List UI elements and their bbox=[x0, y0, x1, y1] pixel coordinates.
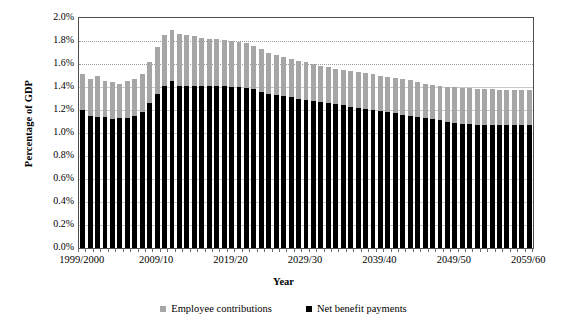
x-axis-tick bbox=[324, 248, 325, 252]
bar-group bbox=[184, 18, 189, 248]
x-axis-tick bbox=[525, 248, 526, 252]
x-axis-tick bbox=[197, 248, 198, 252]
bar-group bbox=[80, 18, 85, 248]
bar-net-benefit-payments bbox=[333, 104, 338, 248]
bar-group bbox=[103, 18, 108, 248]
chart-container: Percentage of GDP 0.0%0.2%0.4%0.6%0.8%1.… bbox=[0, 0, 567, 331]
bar-net-benefit-payments bbox=[192, 86, 197, 248]
bar-net-benefit-payments bbox=[140, 112, 145, 248]
legend-swatch-icon bbox=[306, 306, 312, 312]
x-axis-tick-labels: 1999/20002009/102019/202029/302039/40204… bbox=[0, 253, 567, 269]
x-axis-tick bbox=[234, 248, 235, 252]
y-axis-tick-label: 0.8% bbox=[24, 150, 74, 160]
bar-net-benefit-payments bbox=[415, 117, 420, 248]
x-axis-tick bbox=[368, 248, 369, 252]
bar-net-benefit-payments bbox=[147, 103, 152, 248]
x-axis-tick bbox=[100, 248, 101, 252]
bar-group bbox=[504, 18, 509, 248]
bar-net-benefit-payments bbox=[95, 117, 100, 248]
bar-group bbox=[326, 18, 331, 248]
bar-net-benefit-payments bbox=[408, 116, 413, 248]
bar-group bbox=[289, 18, 294, 248]
bar-net-benefit-payments bbox=[177, 86, 182, 248]
bar-net-benefit-payments bbox=[289, 97, 294, 248]
x-axis-tick bbox=[249, 248, 250, 252]
x-axis-tick bbox=[383, 248, 384, 252]
x-axis-tick bbox=[517, 248, 518, 252]
bar-group bbox=[333, 18, 338, 248]
x-axis-tick bbox=[428, 248, 429, 252]
bar-net-benefit-payments bbox=[259, 92, 264, 248]
y-axis-tick-label: 1.4% bbox=[24, 81, 74, 91]
bar-net-benefit-payments bbox=[311, 101, 316, 248]
y-axis-tick-label: 0.0% bbox=[24, 242, 74, 252]
bar-group bbox=[222, 18, 227, 248]
bar-net-benefit-payments bbox=[475, 125, 480, 248]
x-axis-tick bbox=[205, 248, 206, 252]
bar-group bbox=[356, 18, 361, 248]
y-axis-tick-label: 1.6% bbox=[24, 58, 74, 68]
bar-net-benefit-payments bbox=[512, 125, 517, 248]
x-axis-tick bbox=[272, 248, 273, 252]
bar-net-benefit-payments bbox=[80, 110, 85, 248]
x-axis-tick bbox=[338, 248, 339, 252]
x-axis-tick bbox=[227, 248, 228, 252]
bar-group bbox=[438, 18, 443, 248]
x-axis-tick bbox=[78, 248, 79, 252]
bar-net-benefit-payments bbox=[155, 94, 160, 248]
bar-net-benefit-payments bbox=[237, 87, 242, 248]
x-axis-tick bbox=[152, 248, 153, 252]
bar-group bbox=[512, 18, 517, 248]
bars-layer bbox=[79, 18, 533, 248]
bar-net-benefit-payments bbox=[497, 125, 502, 248]
y-axis-tick-label: 0.4% bbox=[24, 196, 74, 206]
x-axis-tick bbox=[487, 248, 488, 252]
bar-net-benefit-payments bbox=[117, 118, 122, 248]
x-axis-tick bbox=[108, 248, 109, 252]
bar-net-benefit-payments bbox=[304, 100, 309, 248]
bar-net-benefit-payments bbox=[296, 99, 301, 249]
y-axis-tick-label: 1.8% bbox=[24, 35, 74, 45]
bar-net-benefit-payments bbox=[423, 118, 428, 248]
bar-net-benefit-payments bbox=[251, 89, 256, 248]
legend-item[interactable]: Net benefit payments bbox=[306, 303, 407, 314]
x-axis-tick-label: 2059/60 bbox=[483, 253, 567, 266]
legend-label: Net benefit payments bbox=[317, 303, 407, 314]
bar-group bbox=[177, 18, 182, 248]
x-axis-tick bbox=[123, 248, 124, 252]
x-axis-tick bbox=[398, 248, 399, 252]
bar-group bbox=[311, 18, 316, 248]
bar-net-benefit-payments bbox=[214, 86, 219, 248]
x-axis-tick bbox=[443, 248, 444, 252]
bar-group bbox=[318, 18, 323, 248]
bar-group bbox=[341, 18, 346, 248]
y-axis-tick-label: 2.0% bbox=[24, 12, 74, 22]
bar-group bbox=[266, 18, 271, 248]
bar-net-benefit-payments bbox=[229, 87, 234, 248]
x-axis-tick bbox=[175, 248, 176, 252]
bar-group bbox=[393, 18, 398, 248]
x-axis-title: Year bbox=[0, 276, 567, 287]
bar-group bbox=[445, 18, 450, 248]
bar-net-benefit-payments bbox=[400, 115, 405, 248]
bar-group bbox=[110, 18, 115, 248]
bar-group bbox=[519, 18, 524, 248]
legend-item[interactable]: Employee contributions bbox=[160, 303, 272, 314]
bar-net-benefit-payments bbox=[281, 96, 286, 248]
bar-net-benefit-payments bbox=[274, 95, 279, 248]
bar-group bbox=[274, 18, 279, 248]
bar-group bbox=[170, 18, 175, 248]
y-axis-tick-label: 0.6% bbox=[24, 173, 74, 183]
x-axis-tick bbox=[420, 248, 421, 252]
bar-net-benefit-payments bbox=[341, 105, 346, 248]
bar-net-benefit-payments bbox=[371, 110, 376, 248]
bar-group bbox=[378, 18, 383, 248]
bar-net-benefit-payments bbox=[356, 108, 361, 248]
x-axis-tick bbox=[257, 248, 258, 252]
x-axis-tick bbox=[145, 248, 146, 252]
bar-group bbox=[527, 18, 532, 248]
bar-group bbox=[229, 18, 234, 248]
x-axis-tick bbox=[190, 248, 191, 252]
bar-net-benefit-payments bbox=[326, 103, 331, 248]
x-axis-tick bbox=[219, 248, 220, 252]
